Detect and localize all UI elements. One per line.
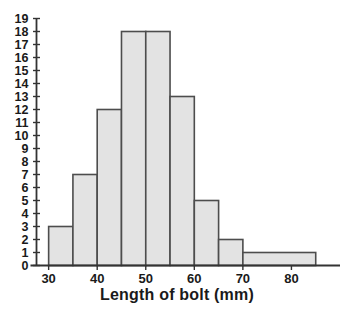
y-tick-label: 6 [22,181,29,195]
histogram-bar [146,32,170,266]
y-tick-label: 3 [22,220,29,234]
chart-canvas: 012345678910111213141516171819 304050607… [0,0,354,311]
histogram-chart: 012345678910111213141516171819 304050607… [0,0,354,311]
histogram-bar [73,175,97,266]
y-tick-label: 10 [15,129,29,143]
y-tick-label: 5 [22,194,29,208]
y-tick-label: 4 [22,207,29,221]
y-tick-label: 14 [15,77,29,91]
y-tick-label: 9 [22,142,29,156]
y-tick-label: 11 [15,116,28,130]
x-tick-label: 60 [187,271,201,286]
y-tick-label: 17 [15,38,29,52]
histogram-bar [194,201,218,266]
histogram-bar [243,253,316,266]
x-tick-label: 50 [139,271,153,286]
y-tick-label: 1 [22,246,29,260]
y-tick-label: 12 [15,103,29,117]
y-tick-label: 19 [15,12,29,26]
histogram-bar [97,110,121,266]
x-tick-label: 80 [284,271,298,286]
histogram-bar [170,97,194,266]
x-axis-title: Length of bolt (mm) [100,286,254,303]
y-tick-label: 18 [15,25,29,39]
y-tick-label: 8 [22,155,29,169]
y-tick-label: 15 [15,64,29,78]
histogram-bar [121,32,145,266]
x-tick-label: 70 [236,271,250,286]
y-tick-label: 16 [15,51,29,65]
y-tick-label: 0 [22,259,29,273]
y-tick-label: 7 [22,168,29,182]
histogram-bar [219,240,243,266]
histogram-bar [49,227,73,266]
y-tick-label: 13 [15,90,29,104]
x-tick-label: 30 [41,271,55,286]
y-tick-label: 2 [22,233,29,247]
x-tick-label: 40 [90,271,104,286]
